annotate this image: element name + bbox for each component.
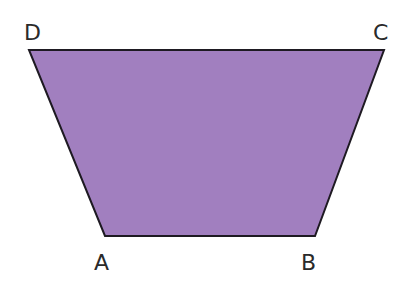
vertex-label-c: C xyxy=(373,20,388,45)
trapezoid-shape xyxy=(29,50,384,236)
vertex-label-d: D xyxy=(24,20,41,45)
trapezoid-diagram: D C A B xyxy=(0,0,412,281)
vertex-label-a: A xyxy=(94,250,109,275)
vertex-label-b: B xyxy=(301,250,316,275)
